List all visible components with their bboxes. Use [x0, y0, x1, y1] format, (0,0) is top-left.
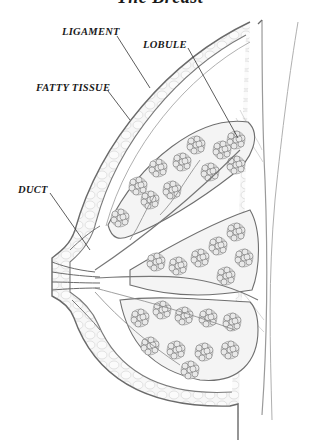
breast-anatomy-illustration	[0, 0, 320, 443]
label-duct: DUCT	[18, 184, 48, 195]
label-fatty-tissue: FATTY TISSUE	[36, 82, 110, 93]
label-ligament: LIGAMENT	[62, 26, 120, 37]
label-lobule: LOBULE	[143, 39, 187, 50]
chest-wall	[262, 20, 298, 420]
